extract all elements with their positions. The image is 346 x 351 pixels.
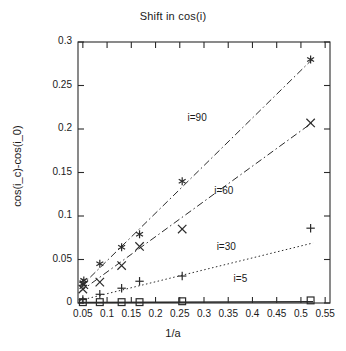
chart-figure: Shift in cos(i) 1/a cos(i_c)-cos(i_0) 0.…: [0, 0, 346, 351]
x-axis-label: 1/a: [0, 327, 346, 339]
series-markers-i-60: [79, 119, 315, 294]
series-markers-i-30: [79, 224, 315, 304]
series-annotation-i-90: i=90: [188, 112, 207, 123]
y-tick-label-5: 0.25: [34, 79, 72, 90]
plot-frame: [78, 42, 330, 303]
y-tick-label-3: 0.15: [34, 166, 72, 177]
y-tick-label-1: 0.05: [34, 253, 72, 264]
fit-line-i-30: [80, 243, 313, 300]
fit-line-i-60: [80, 122, 313, 292]
series-annotation-i-5: i=5: [234, 273, 248, 284]
x-tick-label-10: 0.55: [311, 308, 339, 319]
series-annotation-i-60: i=60: [214, 185, 233, 196]
fit-line-i-5: [80, 302, 313, 303]
fit-line-i-90: [80, 59, 313, 288]
y-tick-label-2: 0.1: [34, 209, 72, 220]
series-annotation-i-30: i=30: [217, 241, 236, 252]
y-axis-label: cos(i_c)-cos(i_0): [11, 86, 23, 246]
y-tick-label-6: 0.3: [34, 35, 72, 46]
y-tick-label-4: 0.2: [34, 122, 72, 133]
y-tick-label-0: 0: [34, 296, 72, 307]
